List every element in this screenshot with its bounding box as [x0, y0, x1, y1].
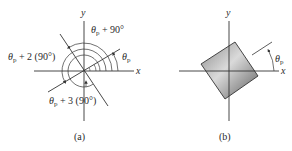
arc-theta-p-b [269, 51, 275, 72]
x-axis-label-b: x [280, 65, 286, 76]
y-axis-label: y [80, 7, 86, 18]
rotated-stress-element [201, 42, 258, 99]
caption-b: (b) [219, 131, 231, 143]
label-theta-p-90: θp + 90° [91, 24, 124, 37]
x-axis-label: x [135, 65, 141, 76]
y-axis-label-b: y [225, 7, 231, 18]
label-theta-p-b: θp [275, 53, 284, 66]
stress-transformation-diagram: y x θp + 90° θp θp + 2 (90°) θp + 3 (90°… [0, 0, 292, 151]
label-theta-p-180: θp + 2 (90°) [8, 51, 55, 64]
caption-a: (a) [74, 131, 85, 143]
arc-inner-2 [89, 68, 90, 71]
panel-a: y x θp + 90° θp θp + 2 (90°) θp + 3 (90°… [8, 7, 141, 143]
arc-theta-p [113, 54, 118, 71]
label-theta-p-270: θp + 3 (90°) [49, 95, 96, 108]
arc-inner-1 [94, 65, 96, 71]
panel-b: y x θp (b) [179, 7, 286, 143]
principal-direction-line [252, 42, 272, 55]
label-theta-p: θp [122, 51, 131, 64]
